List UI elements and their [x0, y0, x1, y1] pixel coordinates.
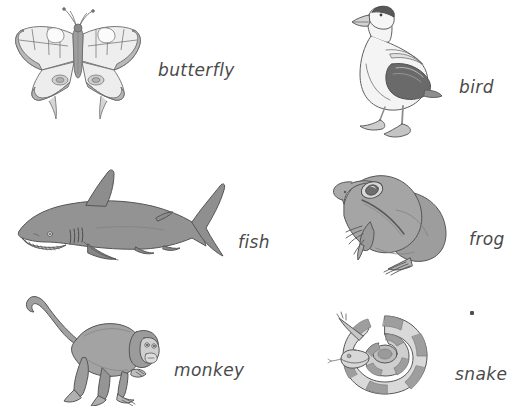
item-frog[interactable]: frog: [318, 152, 505, 277]
snake-illustration: [325, 306, 445, 401]
item-label-frog: frog: [469, 229, 505, 249]
butterfly-illustration: [8, 6, 148, 126]
item-monkey[interactable]: monkey: [18, 288, 245, 406]
stray-dot-mark: [470, 311, 474, 315]
bird-illustration: [330, 2, 445, 142]
fish-illustration: [6, 158, 234, 278]
item-label-bird: bird: [459, 77, 494, 97]
item-fish[interactable]: fish: [6, 158, 270, 278]
item-label-snake: snake: [455, 364, 507, 384]
item-label-monkey: monkey: [174, 360, 245, 380]
worksheet-canvas: butterfly: [0, 0, 512, 408]
item-label-butterfly: butterfly: [158, 60, 235, 80]
frog-illustration: [318, 152, 463, 277]
item-label-fish: fish: [238, 232, 270, 252]
monkey-illustration: [18, 288, 168, 406]
item-butterfly[interactable]: butterfly: [8, 6, 235, 126]
item-snake[interactable]: snake: [325, 306, 507, 401]
item-bird[interactable]: bird: [330, 2, 494, 142]
